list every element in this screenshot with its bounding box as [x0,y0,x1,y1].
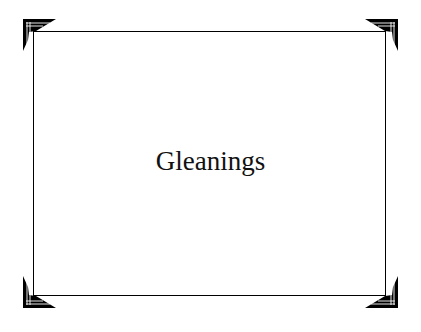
top-left-corner-bracket-icon [22,18,58,54]
bottom-left-corner-bracket-icon [22,273,58,309]
bottom-right-corner-bracket-icon [363,273,399,309]
page-title: Gleanings [0,146,421,177]
title-card: Gleanings [0,0,421,332]
top-right-corner-bracket-icon [363,18,399,54]
